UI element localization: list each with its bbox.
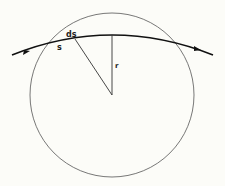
arrow-left-icon [23,50,30,55]
label-s: s [57,43,62,52]
slant-line [75,39,112,95]
label-ds: ds [66,30,77,39]
diagram: ds s r [0,0,225,186]
label-r: r [115,62,119,70]
